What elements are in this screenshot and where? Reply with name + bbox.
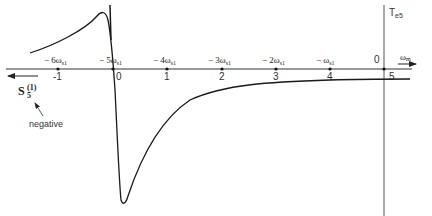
slip-axis-subscript: 5 [27,91,31,100]
tick-dot [382,67,385,70]
vertical-axis-label: Te5 [389,7,403,19]
speed-tick-label: 0 [374,54,380,65]
speed-tick-label: − ωs1 [316,55,335,66]
speed-tick-label: − 6ωs1 [44,55,67,66]
negative-pointer-arrow [35,103,43,116]
slip-tick-label: 0 [116,71,122,82]
slip-tick-label: 2 [219,71,225,82]
horizontal-axis-label: ωm [400,52,411,62]
negative-note: negative [29,119,63,129]
slip-tick-label: 5 [389,71,395,82]
slip-tick-label: -1 [53,71,62,82]
slip-tick-label: 3 [273,71,279,82]
speed-tick-label: − 5ωs1 [99,55,122,66]
torque-curve [30,13,410,204]
speed-tick-label: − 3ωs1 [208,55,231,66]
slip-tick-label: 1 [164,71,170,82]
speed-tick-label: − 2ωs1 [262,55,285,66]
speed-tick-label: − 4ωs1 [153,55,176,66]
asymptote-line [110,5,111,40]
torque-speed-diagram: − 6ωs1− 5ωs1− 4ωs1− 3ωs1− 2ωs1− ωs10 -10… [0,0,432,216]
slip-axis-label: S [18,84,25,98]
